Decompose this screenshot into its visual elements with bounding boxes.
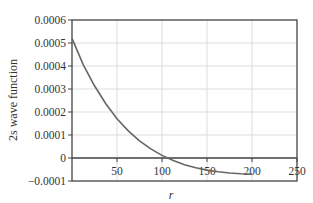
x-tick-label: 100 [153,165,171,177]
x-tick-label: 50 [111,165,123,177]
y-tick-labels: −0.000100.00010.00020.00030.00040.00050.… [28,14,66,187]
y-tick-label: 0.0004 [34,60,66,72]
y-tick-label: 0.0001 [34,129,66,141]
y-tick-label: −0.0001 [28,175,66,187]
chart: 50100150200250 −0.000100.00010.00020.000… [0,0,313,203]
y-tick-label: 0 [60,152,66,164]
x-tick-label: 200 [243,165,261,177]
y-tick-label: 0.0005 [34,37,66,49]
x-axis-label: r [169,188,174,202]
axis-ticks [68,20,297,181]
x-tick-label: 250 [288,165,306,177]
y-tick-label: 0.0003 [34,83,66,95]
grid-lines [72,20,297,181]
plot-frame [72,20,297,181]
y-tick-label: 0.0002 [34,106,66,118]
y-axis-label: 2s wave function [6,59,20,141]
y-tick-label: 0.0006 [34,14,66,26]
